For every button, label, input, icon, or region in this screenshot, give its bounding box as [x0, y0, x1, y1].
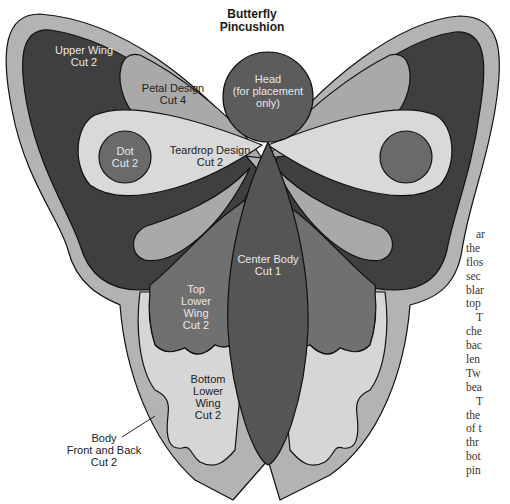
diagram-title: Butterfly Pincushion — [202, 8, 302, 34]
dot-right — [380, 131, 432, 183]
label-dot: Dot Cut 2 — [103, 145, 147, 169]
label-petal-design: Petal Design Cut 4 — [130, 82, 216, 106]
title-line-2: Pincushion — [202, 21, 302, 34]
label-body-front-back: Body Front and Back Cut 2 — [66, 432, 142, 468]
label-teardrop-design: Teardrop Design Cut 2 — [160, 144, 260, 168]
label-upper-wing: Upper Wing Cut 2 — [44, 44, 124, 68]
label-center-body: Center Body Cut 1 — [230, 253, 306, 277]
label-top-lower-wing: Top Lower Wing Cut 2 — [173, 283, 219, 331]
label-bottom-lower-wing: Bottom Lower Wing Cut 2 — [183, 373, 233, 421]
label-head: Head (for placement only) — [223, 73, 313, 109]
cropped-body-text: ar the flos sec blar top T che bac len T… — [466, 228, 485, 478]
